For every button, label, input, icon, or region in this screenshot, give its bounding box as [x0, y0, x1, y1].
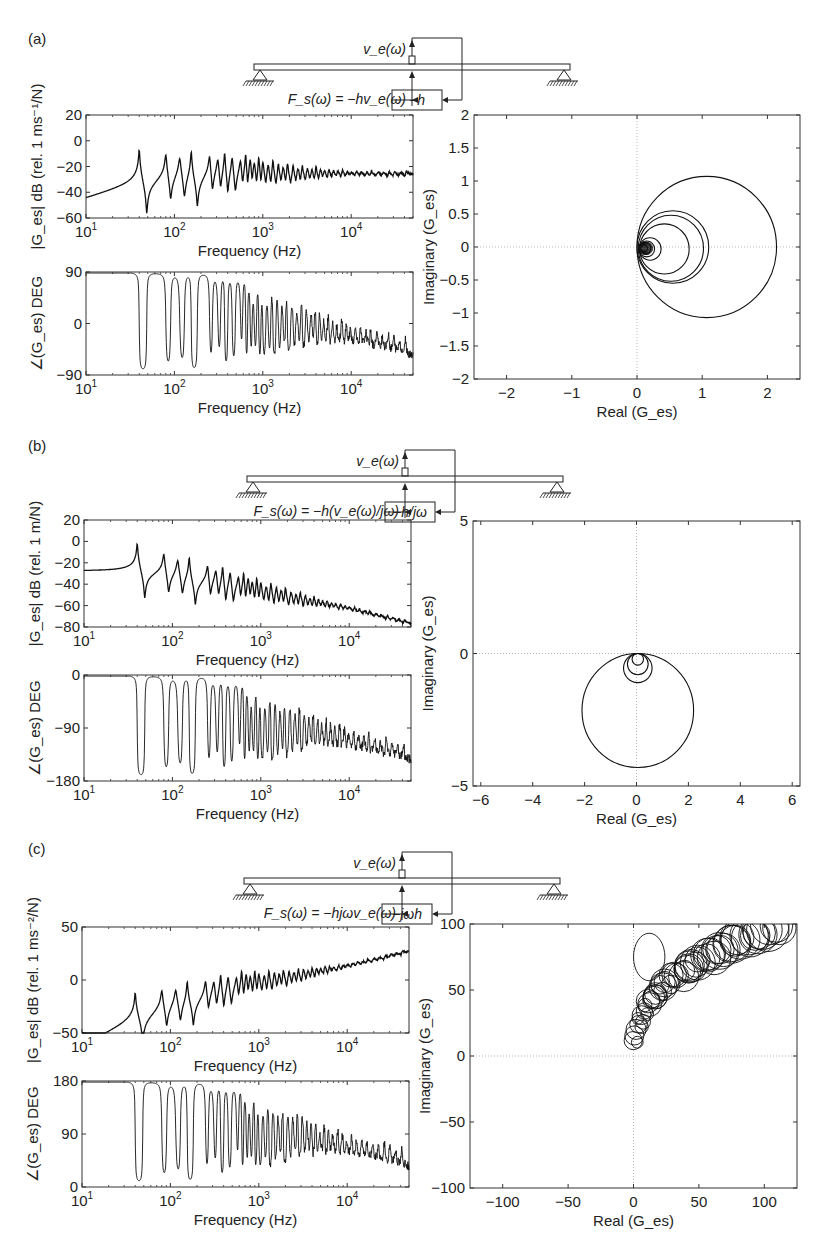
x-tick-label: 103 — [252, 378, 275, 397]
panel-c-nyquist-plot: −100−50050100100500−50−100Real (G_es)Ima… — [416, 906, 797, 1229]
y-tick-label: 20 — [63, 511, 80, 528]
force-label: F_s(ω) = −h(v_e(ω)/jω) — [253, 503, 399, 519]
panel-a-nyquist-plot: −2−101221.510.50−0.5−1−1.5−2Real (G_es)I… — [420, 106, 800, 420]
x-tick-label: 103 — [248, 1190, 271, 1209]
y-tick-label: 180 — [53, 1072, 78, 1089]
x-tick-label: 104 — [336, 1190, 359, 1209]
y-tick-label: 20 — [65, 106, 82, 123]
y-tick-label: −20 — [55, 554, 80, 571]
y-tick-label: 90 — [65, 263, 82, 280]
x-axis-label: Frequency (Hz) — [196, 805, 299, 822]
y-axis-label: |G_es| dB (rel. 1 ms⁻¹/N) — [28, 84, 45, 250]
y-tick-label: 90 — [61, 1125, 78, 1142]
y-tick-label: −40 — [57, 183, 82, 200]
x-tick-label: −1 — [563, 384, 580, 401]
x-tick-label: 1 — [698, 384, 706, 401]
x-tick-label: 2 — [763, 384, 771, 401]
x-tick-label: −100 — [486, 1193, 520, 1210]
x-tick-label: 103 — [250, 784, 273, 803]
x-tick-label: 104 — [340, 378, 363, 397]
y-tick-label: 0 — [74, 315, 82, 332]
x-axis-label: Frequency (Hz) — [198, 399, 301, 416]
y-axis-label: |G_es| dB (rel. 1 ms⁻²/N) — [24, 897, 41, 1063]
panel-b-magnitude-plot: 101102103104200−20−40−60−80Frequency (Hz… — [26, 501, 411, 668]
nyquist-trace — [624, 906, 796, 1049]
y-tick-label: −1 — [452, 304, 469, 321]
x-tick-label: 103 — [248, 1036, 271, 1055]
panel-a-phase-plot: 101102103104900−90Frequency (Hz)∠(G_es) … — [28, 263, 413, 416]
y-tick-label: −40 — [55, 575, 80, 592]
x-axis-label: Real (G_es) — [596, 810, 677, 827]
x-tick-label: 100 — [752, 1193, 777, 1210]
y-tick-label: 0 — [74, 132, 82, 149]
force-label: F_s(ω) = −hv_e(ω) — [288, 91, 406, 107]
y-tick-label: −90 — [57, 366, 82, 383]
y-tick-label: 1 — [461, 172, 469, 189]
x-tick-label: 104 — [338, 784, 361, 803]
x-tick-label: −50 — [555, 1193, 580, 1210]
panel-b-nyquist-plot: −6−4−2024650−5Real (G_es)Imaginary (G_es… — [419, 512, 800, 827]
x-tick-label: 2 — [684, 791, 692, 808]
panel-b-phase-plot: 1011021031040−90−180Frequency (Hz)∠(G_es… — [26, 666, 411, 822]
magnitude-trace — [82, 951, 409, 1033]
x-axis-label: Frequency (Hz) — [198, 242, 301, 259]
y-axis-label: ∠(G_es) DEG — [24, 1086, 41, 1182]
y-tick-label: 1.5 — [448, 139, 469, 156]
magnitude-trace — [84, 544, 411, 624]
sensor-label: v_e(ω) — [356, 453, 399, 469]
x-axis-label: Frequency (Hz) — [196, 651, 299, 668]
x-tick-label: 0 — [633, 384, 641, 401]
x-axis-label: Real (G_es) — [593, 1212, 674, 1229]
y-tick-label: −5 — [451, 777, 468, 794]
y-tick-label: −60 — [57, 209, 82, 226]
nyquist-trace — [582, 654, 694, 768]
y-tick-label: −90 — [55, 719, 80, 736]
x-tick-label: 104 — [340, 221, 363, 240]
panel-c-magnitude-plot: 101102103104500−50Frequency (Hz)|G_es| d… — [24, 897, 409, 1074]
x-axis-label: Frequency (Hz) — [194, 1211, 297, 1228]
y-axis-label: Imaginary (G_es) — [419, 596, 436, 712]
x-axis-label: Real (G_es) — [597, 403, 678, 420]
x-tick-label: 0 — [629, 1193, 637, 1210]
magnitude-trace — [86, 151, 413, 214]
y-tick-label: 50 — [448, 981, 465, 998]
y-tick-label: 0 — [72, 532, 80, 549]
y-tick-label: 2 — [461, 106, 469, 123]
sensor-label: v_e(ω) — [353, 855, 396, 871]
y-tick-label: −2 — [452, 370, 469, 387]
x-tick-label: 102 — [163, 221, 186, 240]
x-tick-label: 103 — [252, 221, 275, 240]
y-tick-label: −50 — [440, 1113, 465, 1130]
panel-c-phase-plot: 101102103104180900Frequency (Hz)∠(G_es) … — [24, 1072, 409, 1228]
x-tick-label: 104 — [338, 630, 361, 649]
y-tick-label: 0.5 — [448, 205, 469, 222]
x-tick-label: 102 — [159, 1190, 182, 1209]
y-tick-label: −180 — [46, 772, 80, 789]
x-tick-label: 104 — [336, 1036, 359, 1055]
y-axis-label: Imaginary (G_es) — [416, 998, 433, 1114]
x-tick-label: −6 — [472, 791, 489, 808]
y-axis-label: ∠(G_es) DEG — [26, 680, 43, 776]
x-tick-label: 4 — [736, 791, 744, 808]
y-tick-label: 0 — [70, 1178, 78, 1195]
x-tick-label: 102 — [161, 630, 184, 649]
x-tick-label: −4 — [524, 791, 541, 808]
y-tick-label: 50 — [61, 918, 78, 935]
y-tick-label: 0 — [72, 666, 80, 683]
phase-trace — [82, 1082, 409, 1180]
x-tick-label: −2 — [576, 791, 593, 808]
x-tick-label: 102 — [163, 378, 186, 397]
beam-diagram-c: −jωhv_e(ω)F_s(ω) = −hjωv_e(ω) — [233, 852, 568, 924]
y-tick-label: −0.5 — [439, 271, 469, 288]
x-tick-label: 0 — [632, 791, 640, 808]
y-axis-label: ∠(G_es) DEG — [28, 276, 45, 372]
x-tick-label: 102 — [159, 1036, 182, 1055]
x-tick-label: 50 — [691, 1193, 708, 1210]
y-tick-label: 0 — [457, 1047, 465, 1064]
y-tick-label: 100 — [440, 915, 465, 932]
y-tick-label: 0 — [461, 238, 469, 255]
y-tick-label: −100 — [431, 1179, 465, 1196]
y-tick-label: 0 — [460, 645, 468, 662]
x-tick-label: 102 — [161, 784, 184, 803]
y-tick-label: −80 — [55, 618, 80, 635]
